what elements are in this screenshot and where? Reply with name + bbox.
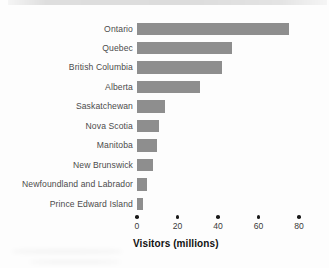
bar-newfoundland-and-labrador	[137, 178, 147, 191]
scan-artifact-bottom-2	[30, 260, 120, 264]
scan-artifact-bottom-1	[12, 249, 122, 254]
category-label-new-brunswick: New Brunswick	[0, 159, 133, 172]
tick-label: 20	[163, 221, 193, 231]
tick-label: 80	[284, 221, 314, 231]
category-label-british-columbia: British Columbia	[0, 61, 133, 74]
tick-label: 60	[244, 221, 274, 231]
bar-nova-scotia	[137, 120, 159, 133]
category-label-quebec: Quebec	[0, 42, 133, 55]
bar-row-nova-scotia: Nova Scotia	[0, 120, 329, 133]
tick-dot-icon	[216, 215, 220, 219]
bar-row-ontario: Ontario	[0, 23, 329, 36]
category-label-saskatchewan: Saskatchewan	[0, 100, 133, 113]
visitors-chart-page: OntarioQuebecBritish ColumbiaAlbertaSask…	[0, 0, 329, 268]
bar-row-newfoundland-and-labrador: Newfoundland and Labrador	[0, 178, 329, 191]
category-label-ontario: Ontario	[0, 23, 133, 36]
category-label-manitoba: Manitoba	[0, 139, 133, 152]
bar-manitoba	[137, 139, 157, 152]
bar-row-quebec: Quebec	[0, 42, 329, 55]
visitors-bar-chart: OntarioQuebecBritish ColumbiaAlbertaSask…	[0, 0, 329, 268]
tick-dot-icon	[176, 215, 180, 219]
bar-alberta	[137, 81, 200, 94]
bar-row-prince-edward-island: Prince Edward Island	[0, 198, 329, 211]
bar-row-new-brunswick: New Brunswick	[0, 159, 329, 172]
category-label-prince-edward-island: Prince Edward Island	[0, 198, 133, 211]
tick-label: 40	[203, 221, 233, 231]
tick-label: 0	[122, 221, 152, 231]
bar-row-saskatchewan: Saskatchewan	[0, 100, 329, 113]
category-label-nova-scotia: Nova Scotia	[0, 120, 133, 133]
bar-quebec	[137, 42, 232, 55]
bar-row-british-columbia: British Columbia	[0, 61, 329, 74]
bar-row-manitoba: Manitoba	[0, 139, 329, 152]
tick-dot-icon	[135, 215, 139, 219]
bar-row-alberta: Alberta	[0, 81, 329, 94]
bar-new-brunswick	[137, 159, 153, 172]
bar-british-columbia	[137, 61, 222, 74]
tick-dot-icon	[297, 215, 301, 219]
category-label-alberta: Alberta	[0, 81, 133, 94]
bar-ontario	[137, 23, 289, 36]
category-label-newfoundland-and-labrador: Newfoundland and Labrador	[0, 178, 133, 191]
bar-prince-edward-island	[137, 198, 143, 211]
tick-dot-icon	[257, 215, 261, 219]
bar-saskatchewan	[137, 100, 165, 113]
x-axis-title: Visitors (millions)	[133, 238, 219, 249]
